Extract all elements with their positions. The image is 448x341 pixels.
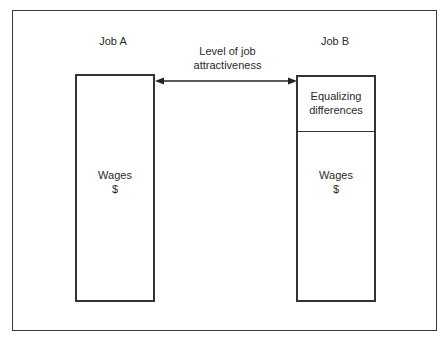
job-a-title: Job A	[78, 34, 148, 48]
job-b-title: Job B	[300, 34, 370, 48]
arrow-label-line2: attractiveness	[170, 58, 285, 72]
double-headed-arrow-icon	[155, 75, 297, 87]
arrow-label-line1: Level of job	[170, 44, 285, 58]
job-a-wages-label: Wages $	[77, 168, 153, 196]
job-b-equalizing-text: Equalizing	[298, 89, 374, 103]
job-b-segment-divider	[298, 131, 374, 132]
job-a-wages-text: Wages	[77, 168, 153, 182]
job-b-wages-text: Wages	[298, 168, 374, 182]
job-a-bar: Wages $	[75, 74, 155, 302]
job-b-differences-text: differences	[298, 103, 374, 117]
job-b-wages-label: Wages $	[298, 168, 374, 196]
job-a-wages-symbol: $	[77, 182, 153, 196]
job-b-equalizing-differences-label: Equalizing differences	[298, 89, 374, 117]
job-b-wages-symbol: $	[298, 182, 374, 196]
arrow-label: Level of job attractiveness	[170, 44, 285, 72]
job-b-bar: Equalizing differences Wages $	[296, 75, 376, 302]
